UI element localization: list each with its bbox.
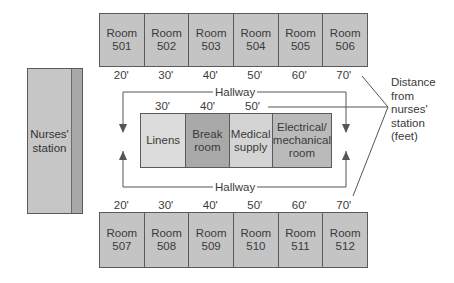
room-label: room [289,147,315,160]
distance-label: 40' [200,100,215,112]
distance-label: 50' [233,199,278,211]
distance-label: 30' [144,199,189,211]
room-number: 509 [202,240,221,253]
linens-room: Linens [141,114,186,167]
distance-label: 70' [322,69,367,81]
room-503: Room503 [189,14,234,66]
room-label: Electrical/ [277,121,327,134]
medical-supply-room: Medical supply [230,114,273,167]
leader-line-bottom [353,107,388,196]
room-label: Room [285,27,316,40]
room-number: 503 [202,40,221,53]
room-number: 505 [291,40,310,53]
annotation-line: Distance [391,76,436,90]
room-number: 508 [157,240,176,253]
distance-label: 30' [144,69,189,81]
room-label: room [194,141,220,154]
annotation-line: station [391,117,436,131]
room-label: Room [285,227,316,240]
nurses-station-line2: station [33,141,67,155]
top-room-row: Room501 Room502 Room503 Room504 Room505 … [99,13,368,67]
room-label: Room [241,27,272,40]
room-number: 512 [336,240,355,253]
top-distance-row: 20' 30' 40' 50' 60' 70' [99,69,366,81]
distance-label: 50' [245,100,263,112]
room-507: Room507 [100,213,145,267]
room-label: Room [330,27,361,40]
arrow-down-icon [119,124,127,133]
room-label: Room [151,27,182,40]
room-number: 504 [246,40,265,53]
room-label: Medical [231,128,271,141]
room-label: Room [196,27,227,40]
distance-label: 50' [233,69,278,81]
room-number: 506 [336,40,355,53]
room-502: Room502 [145,14,190,66]
room-number: 502 [157,40,176,53]
room-label: Room [330,227,361,240]
room-504: Room504 [234,14,279,66]
distance-label: 70' [322,199,367,211]
nurses-station-label: Nurses' station [28,69,71,213]
bottom-distance-row: 20' 30' 40' 50' 60' 70' [99,199,366,211]
room-label: Linens [146,134,180,147]
bottom-room-row: Room507 Room508 Room509 Room510 Room511 … [99,212,368,268]
annotation-line: nurses' [391,103,436,117]
room-label: supply [234,141,267,154]
room-number: 507 [112,240,131,253]
room-505: Room505 [279,14,324,66]
distance-label: 40' [188,69,233,81]
arrow-up-icon [119,151,127,160]
distance-label: 60' [277,199,322,211]
room-511: Room511 [279,213,324,267]
room-510: Room510 [234,213,279,267]
room-label: Break [192,128,222,141]
room-label: mechanical [273,134,331,147]
electrical-mechanical-room: Electrical/ mechanical room [273,114,331,167]
room-label: Room [106,227,137,240]
room-number: 510 [246,240,265,253]
distance-label: 20' [99,199,144,211]
nurses-station-strip [71,69,82,213]
distance-annotation: Distance from nurses' station (feet) [391,76,436,144]
annotation-line: (feet) [391,130,436,144]
hallway-bottom-label: Hallway [213,181,257,193]
room-label: Room [196,227,227,240]
room-label: Room [151,227,182,240]
nurses-station-line1: Nurses' [30,127,69,141]
arrow-down-icon [342,124,350,133]
room-509: Room509 [189,213,234,267]
room-501: Room501 [100,14,145,66]
room-number: 511 [291,240,309,253]
distance-label: 40' [188,199,233,211]
room-506: Room506 [323,14,367,66]
distance-label: 20' [99,69,144,81]
annotation-line: from [391,90,436,104]
distance-label: 60' [277,69,322,81]
room-label: Room [241,227,272,240]
room-512: Room512 [323,213,367,267]
room-number: 501 [112,40,131,53]
arrow-up-icon [342,151,350,160]
room-label: Room [106,27,137,40]
break-room: Break room [186,114,229,167]
distance-label: 30' [155,100,170,112]
hallway-top-label: Hallway [213,86,257,98]
room-508: Room508 [145,213,190,267]
nurses-station: Nurses' station [27,68,83,214]
inner-room-row: Linens Break room Medical supply Electri… [140,113,332,168]
